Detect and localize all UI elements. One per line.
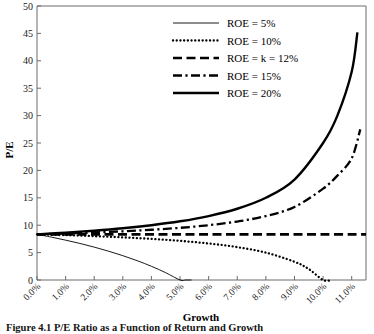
data-curves	[37, 32, 366, 281]
x-tick-label: 10.0%	[304, 281, 328, 305]
y-tick-label: 20	[23, 165, 33, 176]
chart-legend: ROE = 5%ROE = 10%ROE = k = 12%ROE = 15%R…	[173, 17, 298, 99]
y-tick-label: 25	[23, 138, 33, 149]
x-tick-label: 7.0%	[222, 281, 243, 302]
pe-ratio-growth-chart: 05101520253035404550 0.0%1.0%2.0%3.0%4.0…	[0, 0, 374, 334]
x-tick-label: 8.0%	[250, 281, 271, 302]
y-tick-label: 30	[23, 110, 33, 121]
legend-label: ROE = 20%	[227, 87, 281, 99]
x-tick-label: 4.0%	[136, 281, 157, 302]
x-tick-label: 11.0%	[333, 281, 357, 305]
x-tick-label: 5.0%	[164, 281, 185, 302]
y-tick-label: 35	[23, 83, 33, 94]
figure-container: 05101520253035404550 0.0%1.0%2.0%3.0%4.0…	[0, 0, 374, 334]
plot-frame	[37, 6, 366, 280]
y-tick-label: 15	[23, 192, 33, 203]
y-tick-label: 5	[28, 247, 33, 258]
curve-roe-10	[37, 234, 332, 280]
legend-label: ROE = 15%	[227, 70, 281, 82]
legend-label: ROE = 5%	[227, 17, 275, 29]
y-tick-label: 40	[23, 55, 33, 66]
curve-roe-5	[37, 234, 191, 280]
y-axis-title: P/E	[3, 141, 15, 158]
x-tick-label: 0.0%	[21, 281, 42, 302]
x-tick-label: 9.0%	[279, 281, 300, 302]
x-tick-label: 6.0%	[193, 281, 214, 302]
x-tick-label: 2.0%	[79, 281, 100, 302]
x-tick-label: 3.0%	[107, 281, 128, 302]
y-axis: 05101520253035404550	[23, 1, 41, 286]
legend-label: ROE = 10%	[227, 35, 281, 47]
legend-label: ROE = k = 12%	[227, 52, 298, 64]
x-tick-label: 1.0%	[50, 281, 71, 302]
curve-roe-20	[37, 32, 357, 234]
y-tick-label: 10	[23, 220, 33, 231]
figure-caption: Figure 4.1 P/E Ratio as a Function of Re…	[6, 322, 370, 333]
y-tick-label: 50	[23, 1, 33, 12]
y-tick-label: 45	[23, 28, 33, 39]
